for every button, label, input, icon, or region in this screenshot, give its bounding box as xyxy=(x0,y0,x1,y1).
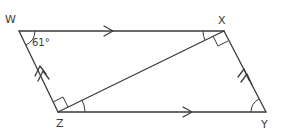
vertex-label-w: W xyxy=(5,13,16,26)
right-angle-marker-x xyxy=(213,36,228,46)
angle-arc-z xyxy=(82,100,85,112)
vertex-label-z: Z xyxy=(56,117,64,130)
angle-arc-x xyxy=(203,31,205,40)
diagonal-zx xyxy=(58,31,224,112)
vertex-label-x: X xyxy=(218,14,226,27)
vertex-label-y: Y xyxy=(260,118,268,131)
parallelogram-diagram: 61° W X Z Y xyxy=(0,0,282,134)
angle-label-w: 61° xyxy=(32,37,50,48)
angle-arc-y xyxy=(251,99,259,112)
double-parallel-arrow-icon xyxy=(238,69,252,85)
